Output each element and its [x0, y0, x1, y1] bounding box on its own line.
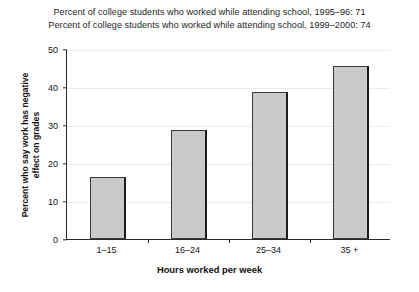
bar-chart-figure: Percent of college students who worked w…: [0, 0, 419, 292]
bar-slot: [90, 50, 126, 239]
y-axis-title-line-1: Percent who say work has negative: [20, 50, 32, 240]
bar-series: [67, 50, 390, 239]
x-axis-tick-label: 35 +: [310, 245, 390, 255]
chart-title-block: Percent of college students who worked w…: [0, 6, 419, 32]
x-axis-tick-mark: [229, 239, 230, 243]
y-axis-tick-label: 10: [34, 197, 58, 207]
y-axis-tick-label: 40: [34, 83, 58, 93]
y-axis-title-line-2: effect on grades: [31, 50, 43, 240]
bar[interactable]: [333, 66, 369, 239]
bar-slot: [171, 50, 207, 239]
x-axis-tick-mark: [148, 239, 149, 243]
bar[interactable]: [90, 177, 126, 239]
chart-title-line-2: Percent of college students who worked w…: [0, 19, 419, 32]
plot-area: [66, 50, 390, 240]
x-axis-title: Hours worked per week: [0, 264, 419, 275]
x-axis-tick-label: 16–24: [148, 245, 228, 255]
y-axis-tick-label: 0: [34, 235, 58, 245]
chart-title-line-1: Percent of college students who worked w…: [0, 6, 419, 19]
bar[interactable]: [252, 92, 288, 239]
y-axis-tick-mark: [63, 239, 67, 240]
y-axis-title: Percent who say work has negative effect…: [18, 0, 44, 50]
bar-slot: [333, 50, 369, 239]
y-axis-tick-label: 50: [34, 45, 58, 55]
x-axis-tick-mark: [310, 239, 311, 243]
x-axis-tick-label: 1–15: [67, 245, 147, 255]
bar[interactable]: [171, 130, 207, 239]
y-axis-tick-label: 20: [34, 159, 58, 169]
bar-slot: [252, 50, 288, 239]
x-axis-tick-label: 25–34: [229, 245, 309, 255]
y-axis-tick-label: 30: [34, 121, 58, 131]
